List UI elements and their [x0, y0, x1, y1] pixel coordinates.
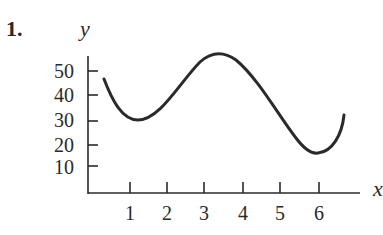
data-curve [104, 54, 344, 153]
y-ticks [88, 71, 98, 166]
plot-area [0, 0, 383, 235]
x-ticks [130, 182, 319, 193]
